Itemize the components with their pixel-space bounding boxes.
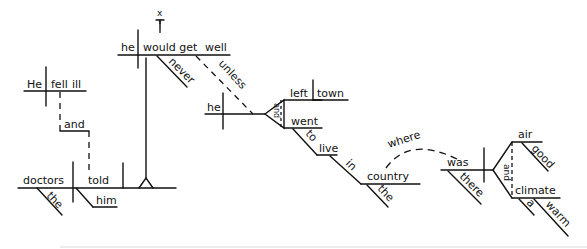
clause-he-fell-ill: He fell ill <box>24 67 86 106</box>
word-good: good <box>529 142 557 171</box>
word-left: left <box>290 87 309 100</box>
word-in: in <box>343 157 359 173</box>
word-he-2: he <box>121 41 135 54</box>
word-he-3: he <box>207 101 221 114</box>
word-unless: unless <box>216 57 250 92</box>
word-would-get: would get <box>143 41 198 54</box>
word-x: x <box>157 8 163 18</box>
clause-he-would-get-well: he would get well x never unless <box>118 8 253 114</box>
word-him: him <box>96 194 117 207</box>
word-the: the <box>44 189 66 211</box>
word-the-2: the <box>375 182 397 204</box>
word-told: told <box>88 174 109 187</box>
word-live: live <box>319 142 339 155</box>
word-ill: ill <box>72 78 81 91</box>
word-and-3: and <box>502 164 512 181</box>
word-where: where <box>386 128 422 151</box>
word-he: He <box>27 78 42 91</box>
word-fell: fell <box>51 78 68 91</box>
word-and: and <box>64 118 85 131</box>
word-town: town <box>317 87 344 100</box>
word-and-2: and <box>272 103 281 118</box>
word-country: country <box>367 170 410 183</box>
word-doctors: doctors <box>23 174 64 187</box>
word-went: went <box>291 115 319 128</box>
word-was: was <box>447 156 469 169</box>
word-air: air <box>518 128 533 141</box>
word-climate: climate <box>515 184 556 197</box>
conjunction-and-connector: and <box>60 92 89 170</box>
clause-was-there: was there and air good climate a warm <box>441 128 573 236</box>
word-well: well <box>205 41 227 54</box>
sentence-diagram: He fell ill and doctors the told him he … <box>0 0 587 249</box>
